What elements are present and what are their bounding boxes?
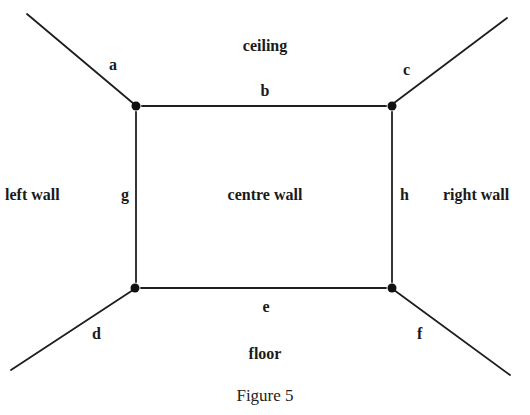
region-label-floor: floor [249, 346, 282, 362]
vertex-bottom-right [388, 284, 397, 293]
vertex-top-right [388, 102, 397, 111]
edge-label-g: g [121, 187, 129, 203]
edge-label-a: a [109, 57, 117, 73]
figure-caption: Figure 5 [236, 387, 293, 404]
edge-label-c: c [403, 62, 410, 78]
edge-label-f: f [417, 326, 422, 342]
edge-label-h: h [400, 187, 409, 203]
vertex-bottom-left [131, 284, 140, 293]
region-label-ceiling: ceiling [243, 38, 287, 54]
edge-label-b: b [261, 83, 270, 99]
region-label-right-wall: right wall [443, 187, 509, 203]
edge-a-line [27, 14, 134, 104]
edge-f-line [394, 290, 510, 375]
edge-d-line [11, 290, 133, 370]
edge-c-line [394, 18, 507, 103]
edge-label-d: d [92, 326, 101, 342]
edge-label-e: e [262, 299, 269, 315]
vertex-top-left [132, 102, 141, 111]
region-label-centre-wall: centre wall [228, 187, 303, 203]
region-label-left-wall: left wall [5, 187, 60, 203]
